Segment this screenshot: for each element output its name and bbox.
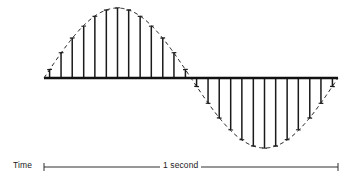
sampled-waveform-figure: [0, 0, 359, 187]
duration-label: 1 second: [160, 160, 201, 170]
time-axis-label: Time: [13, 160, 32, 170]
figure-canvas: Time 1 second: [0, 0, 359, 187]
